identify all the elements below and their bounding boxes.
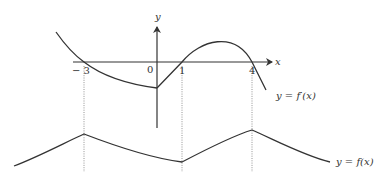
derivative-curve-left: [56, 32, 157, 88]
x-axis-label: x: [275, 56, 281, 67]
y-axis-label: y: [154, 11, 161, 22]
tick-label-neg3: − 3: [72, 65, 90, 76]
derivative-curve-label: y = f′(x): [275, 90, 316, 101]
graph-figure: x y 0 − 3 1 4 y = f′(x) y = f(x): [0, 0, 382, 182]
function-curve: [14, 130, 330, 166]
origin-label: 0: [147, 64, 153, 75]
tick-label-1: 1: [179, 65, 185, 76]
function-curve-label: y = f(x): [335, 156, 374, 167]
